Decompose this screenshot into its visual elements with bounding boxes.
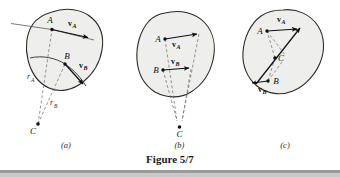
panel-a: A v A B v B r A r B C (a)	[11, 9, 103, 150]
figure-5-7-illustration: A v A B v B r A r B C (a)	[0, 0, 340, 177]
panel-c-vector-vb-subscript: B	[262, 89, 267, 95]
panel-c-vector-vb-label: v	[258, 85, 262, 94]
panel-a-vector-va-label: v	[68, 19, 72, 28]
footer-divider-bar-light	[0, 173, 340, 177]
panel-b-vector-vb-label: v	[171, 57, 175, 66]
panel-b-point-a-label: A	[154, 34, 161, 44]
panel-b: A v A B v B C (b)	[137, 11, 214, 150]
panel-a-point-b-label: B	[64, 51, 70, 61]
panel-b-vector-vb-subscript: B	[175, 61, 180, 67]
panel-b-point-b-label: B	[153, 65, 159, 75]
panel-a-vector-va-subscript: A	[72, 23, 77, 29]
panel-a-point-c-dot	[36, 122, 40, 126]
panel-a-caption: (a)	[61, 140, 71, 150]
panel-a-point-a-label: A	[46, 15, 53, 25]
figure-caption: Figure 5/7	[146, 153, 194, 165]
panel-a-vector-vb-subscript: B	[83, 65, 88, 71]
panel-c-caption: (c)	[280, 140, 290, 150]
panel-b-vector-va-subscript: A	[176, 44, 181, 50]
panel-a-radius-ra-subscript: A	[30, 77, 35, 83]
panel-c: A v A C B v B (c)	[243, 10, 324, 150]
panel-a-vector-vb-label: v	[79, 61, 83, 70]
panel-a-radius-rb-subscript: B	[54, 103, 58, 109]
panel-a-point-c-label: C	[30, 126, 37, 136]
panel-c-vector-va-label: v	[277, 15, 281, 24]
panel-c-point-a-label: A	[256, 26, 263, 36]
panel-b-point-c-label: C	[176, 129, 183, 139]
panel-c-point-c-dot	[273, 56, 277, 60]
panel-c-vector-va-subscript: A	[281, 19, 286, 25]
figure-container: A v A B v B r A r B C (a)	[0, 0, 340, 177]
panel-c-point-c-label: C	[278, 53, 285, 63]
panel-b-caption: (b)	[175, 140, 185, 150]
panel-b-rigid-body	[137, 11, 214, 96]
panel-a-rigid-body	[26, 9, 102, 90]
panel-c-point-b-label: B	[273, 76, 279, 86]
panel-b-vector-va-label: v	[172, 40, 176, 49]
